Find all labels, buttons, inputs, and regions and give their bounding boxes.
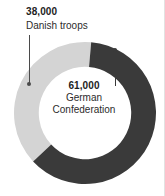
right-edge-divider — [164, 0, 165, 196]
german-confederation-label-line-2: Confederation — [40, 104, 128, 116]
danish-troops-label: Danish troops — [26, 19, 134, 32]
donut-chart-figure: 38,000 Danish troops 61,000 German Confe… — [0, 0, 165, 196]
leader-dot-german-confederation — [113, 48, 117, 52]
leader-dot-danish-troops — [27, 82, 31, 86]
danish-troops-value: 38,000 — [26, 6, 134, 18]
german-confederation-label-line-1: German — [40, 92, 128, 104]
german-confederation-value: 61,000 — [40, 80, 128, 92]
callout-german-confederation: 61,000 German Confederation — [40, 80, 128, 116]
callout-danish-troops: 38,000 Danish troops — [26, 6, 134, 32]
leader-line-danish-troops — [29, 35, 30, 84]
